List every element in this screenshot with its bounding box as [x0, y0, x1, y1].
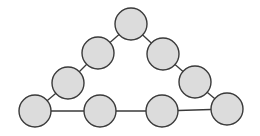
graph-node-n6: [146, 95, 178, 127]
graph-node-n1: [115, 8, 147, 40]
graph-node-n3: [52, 67, 84, 99]
graph-node-n5: [84, 95, 116, 127]
triangle-graph-diagram: [0, 0, 260, 136]
graph-node-n9: [147, 38, 179, 70]
graph-node-n4: [19, 95, 51, 127]
graph-node-n8: [179, 66, 211, 98]
graph-node-n7: [211, 93, 243, 125]
graph-node-n2: [82, 37, 114, 69]
